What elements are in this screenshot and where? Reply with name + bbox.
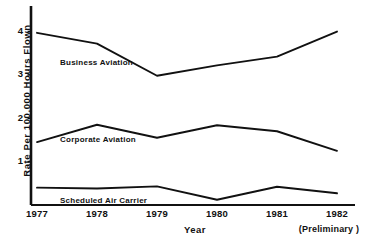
x-axis-tick-label: 1980 xyxy=(195,208,239,219)
x-axis-title: Year xyxy=(150,224,240,235)
line-chart: Rate Per 100,000 Hours Flown 4 3 2 1 197… xyxy=(0,0,367,244)
y-axis-tick-label: 4 xyxy=(7,25,23,36)
y-axis-tick-label: 1 xyxy=(7,155,23,166)
x-axis-tick-label: 1978 xyxy=(75,208,119,219)
series-label-scheduled-air-carrier: Scheduled Air Carrier xyxy=(60,196,147,205)
x-axis-tick-label: 1982 xyxy=(315,208,359,219)
preliminary-note: (Preliminary ) xyxy=(292,224,366,234)
series-line-business-aviation xyxy=(37,32,337,76)
series-label-corporate-aviation: Corporate Aviation xyxy=(60,135,136,144)
y-axis-tick-label: 2 xyxy=(7,112,23,123)
chart-series-lines xyxy=(37,32,337,200)
chart-axes xyxy=(28,6,356,205)
x-axis-tick-label: 1981 xyxy=(255,208,299,219)
series-label-business-aviation: Business Aviation xyxy=(60,58,133,67)
y-axis-tick-label: 3 xyxy=(7,68,23,79)
x-axis-tick-label: 1979 xyxy=(135,208,179,219)
x-axis-tick-label: 1977 xyxy=(15,208,59,219)
